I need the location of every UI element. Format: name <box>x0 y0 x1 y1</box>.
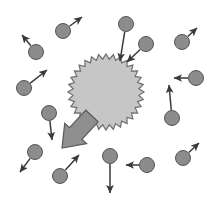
particle-circle <box>56 24 71 39</box>
particle-circle <box>140 158 155 173</box>
particle-circle <box>139 37 154 52</box>
particle-circle <box>103 149 118 164</box>
particle-circle <box>42 106 57 121</box>
particle-circle <box>29 45 44 60</box>
particle-circle <box>189 71 204 86</box>
particle-circle <box>175 35 190 50</box>
particle-circle <box>165 111 180 126</box>
particle-circle <box>53 169 68 184</box>
particle-circle <box>119 17 134 32</box>
particle-circle <box>176 151 191 166</box>
particle-burst-figure <box>0 0 213 206</box>
particle-circle <box>28 145 43 160</box>
particle-circle <box>17 81 32 96</box>
figure-canvas <box>0 0 213 206</box>
